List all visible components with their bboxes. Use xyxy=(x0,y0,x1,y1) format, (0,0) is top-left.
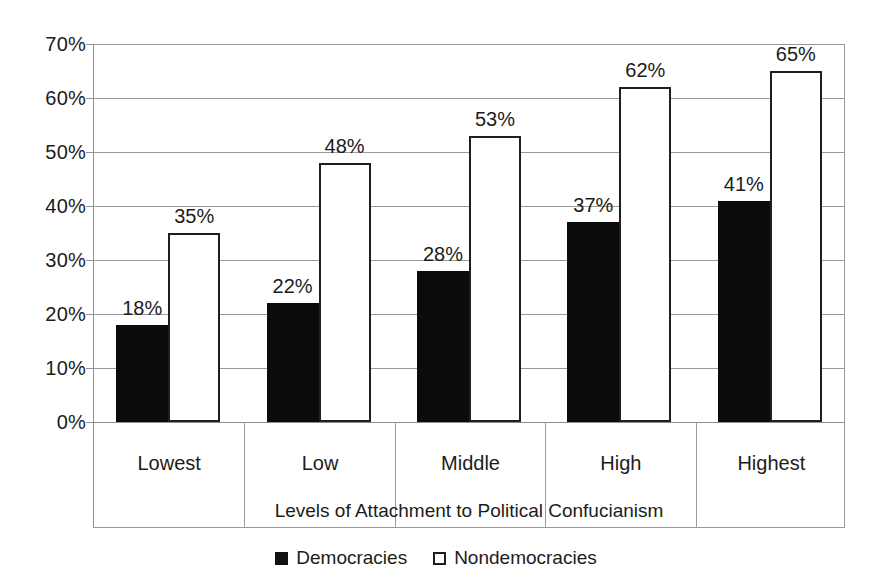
legend-item-democracies[interactable]: Democracies xyxy=(275,548,407,568)
y-axis-tick-mark xyxy=(86,368,93,369)
legend-item-nondemocracies[interactable]: Nondemocracies xyxy=(433,548,597,568)
y-axis-tick-label: 20% xyxy=(12,304,86,324)
bar-value-label: 48% xyxy=(305,136,385,156)
bar-democracies-lowest[interactable] xyxy=(116,325,168,422)
bar-group: 41%65% xyxy=(695,44,845,422)
bar-chart: 0%10%20%30%40%50%60%70% 18%35%22%48%28%5… xyxy=(0,0,872,581)
y-axis-tick-mark xyxy=(86,44,93,45)
bar-group: 37%62% xyxy=(544,44,694,422)
y-axis-tick-label: 70% xyxy=(12,34,86,54)
y-axis-tick-mark xyxy=(86,260,93,261)
bar-value-label: 35% xyxy=(154,206,234,226)
filled-square-icon xyxy=(275,552,288,565)
y-axis-tick-label: 30% xyxy=(12,250,86,270)
bar-group: 18%35% xyxy=(93,44,243,422)
y-axis-tick-mark xyxy=(86,314,93,315)
bar-nondemocracies-high[interactable] xyxy=(619,87,671,422)
x-axis-title: Levels of Attachment to Political Confuc… xyxy=(93,500,845,522)
y-axis-tick-mark xyxy=(86,152,93,153)
bar-nondemocracies-low[interactable] xyxy=(319,163,371,422)
category-label: Highest xyxy=(737,452,805,474)
bar-democracies-highest[interactable] xyxy=(718,201,770,422)
y-axis-tick-label: 50% xyxy=(12,142,86,162)
bar-democracies-middle[interactable] xyxy=(417,271,469,422)
y-axis-tick-mark xyxy=(86,206,93,207)
chart-legend: DemocraciesNondemocracies xyxy=(0,548,872,568)
y-axis-tick-label: 40% xyxy=(12,196,86,216)
bar-value-label: 53% xyxy=(455,109,535,129)
legend-label: Nondemocracies xyxy=(454,548,597,568)
category-label: High xyxy=(600,452,641,474)
y-axis-tick-label: 0% xyxy=(12,412,86,432)
bar-nondemocracies-middle[interactable] xyxy=(469,136,521,422)
bar-nondemocracies-highest[interactable] xyxy=(770,71,822,422)
category-label: Lowest xyxy=(138,452,201,474)
y-axis-tick-mark xyxy=(86,422,93,423)
y-axis-tick-labels: 0%10%20%30%40%50%60%70% xyxy=(8,0,86,581)
bar-nondemocracies-lowest[interactable] xyxy=(168,233,220,422)
y-axis-tick-label: 60% xyxy=(12,88,86,108)
category-label: Middle xyxy=(441,452,500,474)
bar-value-label: 65% xyxy=(756,44,836,64)
bar-democracies-high[interactable] xyxy=(567,222,619,422)
plot-area: 18%35%22%48%28%53%37%62%41%65% xyxy=(93,44,845,422)
bar-group: 22%48% xyxy=(243,44,393,422)
y-axis-tick-label: 10% xyxy=(12,358,86,378)
y-axis-tick-mark xyxy=(86,98,93,99)
bar-value-label: 62% xyxy=(605,60,685,80)
bar-group: 28%53% xyxy=(394,44,544,422)
category-label: Low xyxy=(302,452,339,474)
hollow-square-icon xyxy=(433,552,446,565)
bar-democracies-low[interactable] xyxy=(267,303,319,422)
legend-label: Democracies xyxy=(296,548,407,568)
